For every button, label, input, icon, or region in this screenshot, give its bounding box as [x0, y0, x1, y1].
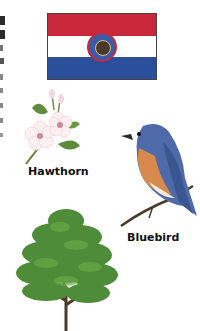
text-fragment: [0, 118, 3, 123]
text-fragment: [0, 58, 4, 64]
text-fragment: [0, 103, 3, 108]
text-fragment: [0, 74, 3, 80]
text-fragment: [0, 88, 3, 93]
text-fragment: [0, 133, 3, 137]
tree-icon: [16, 205, 120, 331]
text-fragment: [0, 16, 5, 25]
text-fragment: [0, 30, 5, 39]
missouri-flag: [47, 13, 157, 80]
state-seal-icon: [87, 32, 117, 62]
hawthorn-label: Hawthorn: [28, 165, 89, 178]
bluebird-icon: [113, 118, 200, 230]
text-fragment: [0, 45, 3, 51]
bluebird-label: Bluebird: [127, 231, 179, 244]
hawthorn-flower-icon: [18, 88, 84, 170]
